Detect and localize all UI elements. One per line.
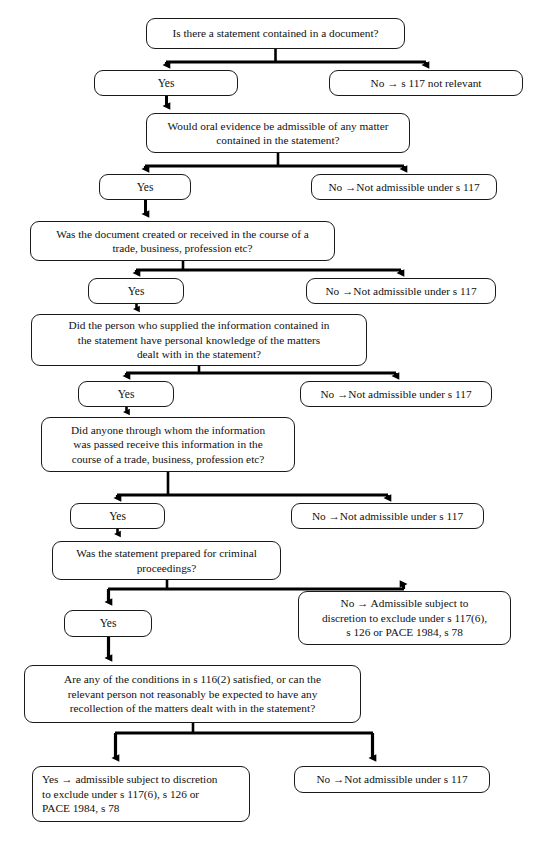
node-yes-document-created-in-trade[interactable]: Yes [88,278,184,304]
node-label: Yes [100,616,117,631]
node-yes-intermediary-received-in-trade[interactable]: Yes [70,503,165,529]
node-label: No →Not admissible under s 117 [328,180,479,194]
node-label: No → s 117 not relevant [371,76,482,90]
node-label: No →Not admissible under s 117 [325,284,476,298]
node-label: Are any of the conditions in s 116(2) sa… [64,672,321,715]
node-question-statement-in-document[interactable]: Is there a statement contained in a docu… [146,18,405,49]
node-label: Did anyone through whom the information … [71,423,265,466]
node-question-s116-conditions-satisfied[interactable]: Are any of the conditions in s 116(2) sa… [24,665,361,723]
node-label: Would oral evidence be admissible of any… [168,119,389,148]
node-yes-statement-in-document[interactable]: Yes [94,70,238,96]
node-label: Was the statement prepared for criminal … [76,546,257,575]
flowchart-canvas: Is there a statement contained in a docu… [0,0,537,846]
node-label: No →Not admissible under s 117 [320,387,471,401]
node-no-s117-not-relevant[interactable]: No → s 117 not relevant [329,70,523,96]
node-label: Was the document created or received in … [56,227,309,256]
node-label: Is there a statement contained in a docu… [172,26,378,40]
node-no-supplier-personal-knowledge[interactable]: No →Not admissible under s 117 [300,381,492,407]
node-label: No →Not admissible under s 117 [312,509,463,523]
node-label: Yes [137,180,154,195]
node-question-intermediary-received-in-trade[interactable]: Did anyone through whom the information … [41,417,295,472]
node-question-oral-evidence-admissible[interactable]: Would oral evidence be admissible of any… [146,113,410,153]
node-no-admissible-subject-to-discretion[interactable]: No → Admissible subject to discretion to… [298,591,511,645]
node-label: Yes → admissible subject to discretion t… [42,772,218,815]
node-label: Yes [109,509,126,524]
node-label: Did the person who supplied the informat… [68,318,329,361]
node-no-oral-evidence-admissible[interactable]: No →Not admissible under s 117 [311,174,497,200]
node-no-intermediary-received-in-trade[interactable]: No →Not admissible under s 117 [291,503,484,529]
node-label: Yes [118,387,135,402]
node-question-supplier-personal-knowledge[interactable]: Did the person who supplied the informat… [31,314,367,366]
node-label: No → Admissible subject to discretion to… [322,596,487,639]
node-yes-supplier-personal-knowledge[interactable]: Yes [78,381,174,407]
node-yes-oral-evidence-admissible[interactable]: Yes [99,174,191,200]
node-question-document-created-in-trade[interactable]: Was the document created or received in … [30,221,335,261]
node-no-not-admissible-final[interactable]: No →Not admissible under s 117 [294,766,490,793]
node-label: Yes [128,284,145,299]
node-question-prepared-for-criminal-proceedings[interactable]: Was the statement prepared for criminal … [52,541,281,580]
node-yes-prepared-for-criminal-proceedings[interactable]: Yes [64,610,152,637]
node-label: No →Not admissible under s 117 [316,772,467,786]
node-yes-admissible-subject-to-discretion[interactable]: Yes → admissible subject to discretion t… [32,766,250,822]
node-no-document-created-in-trade[interactable]: No →Not admissible under s 117 [306,278,496,304]
node-label: Yes [158,76,175,91]
